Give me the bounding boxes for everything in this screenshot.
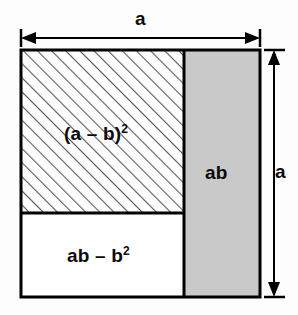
- region-label-square-of-difference: (a – b)2: [64, 124, 128, 143]
- arrowhead-down-icon: [268, 282, 280, 297]
- geometry-diagram: a a (a – b)2 ab ab – b2: [0, 0, 298, 315]
- region-label-base: (a – b): [64, 123, 121, 144]
- region-label-base: ab: [205, 162, 228, 183]
- region-label-exponent: 2: [121, 122, 128, 136]
- region-label-ab-minus-b-squared: ab – b2: [67, 246, 130, 265]
- arrowhead-left-icon: [21, 32, 36, 44]
- arrowhead-right-icon: [245, 32, 260, 44]
- region-label-exponent: 2: [123, 244, 130, 258]
- dimension-label-width: a: [135, 9, 146, 28]
- arrowhead-up-icon: [268, 50, 280, 65]
- region-label-ab: ab: [205, 163, 228, 182]
- diagram-canvas: [0, 0, 298, 315]
- dimension-label-height: a: [275, 162, 286, 181]
- region-label-base: ab – b: [67, 245, 123, 266]
